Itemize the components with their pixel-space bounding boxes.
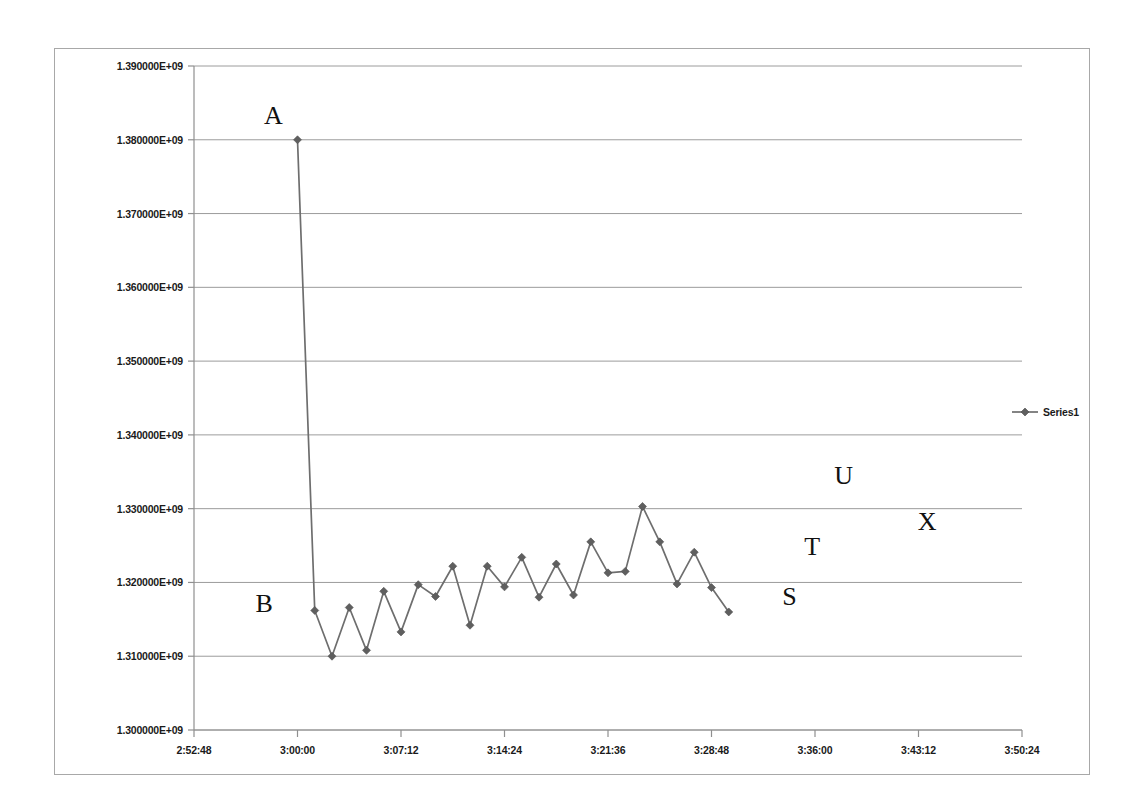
- data-point[interactable]: [587, 538, 595, 546]
- annotation-T: T: [804, 532, 820, 561]
- data-point[interactable]: [328, 652, 336, 660]
- data-point[interactable]: [570, 591, 578, 599]
- x-axis-label: 3:43:12: [901, 744, 936, 756]
- data-point[interactable]: [311, 606, 319, 614]
- legend-marker-Series1: [1021, 408, 1029, 416]
- y-axis-label: 1.370000E+09: [117, 208, 184, 220]
- x-axis-labels: 2:52:483:00:003:07:123:14:243:21:363:28:…: [177, 744, 1040, 756]
- annotation-A: A: [264, 101, 283, 130]
- annotation-B: B: [255, 589, 272, 618]
- data-point[interactable]: [604, 569, 612, 577]
- data-point[interactable]: [621, 567, 629, 575]
- series1-markers[interactable]: [294, 136, 733, 660]
- x-axis-label: 3:36:00: [798, 744, 833, 756]
- data-point[interactable]: [449, 562, 457, 570]
- data-point[interactable]: [673, 580, 681, 588]
- chart-legend[interactable]: Series1: [1012, 406, 1079, 418]
- y-axis-label: 1.320000E+09: [117, 576, 184, 588]
- data-point[interactable]: [552, 560, 560, 568]
- chart-canvas: 1.300000E+091.310000E+091.320000E+091.33…: [0, 0, 1135, 812]
- annotation-X: X: [918, 507, 937, 536]
- series1-line[interactable]: [298, 140, 729, 656]
- y-axis-tickmarks: [188, 66, 194, 730]
- x-axis-label: 3:07:12: [384, 744, 419, 756]
- y-axis-labels: 1.300000E+091.310000E+091.320000E+091.33…: [117, 60, 184, 736]
- data-point[interactable]: [345, 604, 353, 612]
- y-axis-label: 1.350000E+09: [117, 355, 184, 367]
- x-axis-label: 3:28:48: [694, 744, 729, 756]
- annotation-U: U: [834, 461, 853, 490]
- data-point[interactable]: [397, 628, 405, 636]
- data-point[interactable]: [656, 538, 664, 546]
- data-point[interactable]: [380, 587, 388, 595]
- y-axis-label: 1.340000E+09: [117, 429, 184, 441]
- data-point[interactable]: [363, 646, 371, 654]
- y-axis-label: 1.330000E+09: [117, 503, 184, 515]
- y-axis-label: 1.380000E+09: [117, 134, 184, 146]
- data-point[interactable]: [535, 593, 543, 601]
- x-axis-tickmarks: [194, 730, 1022, 737]
- data-annotations: ABSTUX: [255, 101, 936, 619]
- x-axis-label: 3:50:24: [1005, 744, 1040, 756]
- series1-polyline[interactable]: [298, 140, 729, 656]
- data-point[interactable]: [466, 621, 474, 629]
- y-axis-label: 1.310000E+09: [117, 650, 184, 662]
- data-point[interactable]: [294, 136, 302, 144]
- data-point[interactable]: [518, 553, 526, 561]
- gridlines-group: [194, 66, 1022, 730]
- legend-label-Series1[interactable]: Series1: [1043, 406, 1079, 418]
- x-axis-label: 3:21:36: [591, 744, 626, 756]
- y-axis-label: 1.390000E+09: [117, 60, 184, 72]
- x-axis-label: 3:00:00: [280, 744, 315, 756]
- annotation-S: S: [782, 582, 796, 611]
- data-point[interactable]: [690, 548, 698, 556]
- data-point[interactable]: [639, 502, 647, 510]
- x-axis-label: 2:52:48: [177, 744, 212, 756]
- y-axis-label: 1.360000E+09: [117, 281, 184, 293]
- y-axis-label: 1.300000E+09: [117, 724, 184, 736]
- x-axis-label: 3:14:24: [487, 744, 522, 756]
